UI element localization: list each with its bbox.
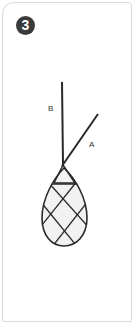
stone [42, 168, 87, 246]
cord-b [62, 82, 63, 164]
cord-label-b: B [48, 104, 53, 113]
pendant-illustration [0, 0, 137, 331]
cord-label-a: A [89, 140, 94, 149]
